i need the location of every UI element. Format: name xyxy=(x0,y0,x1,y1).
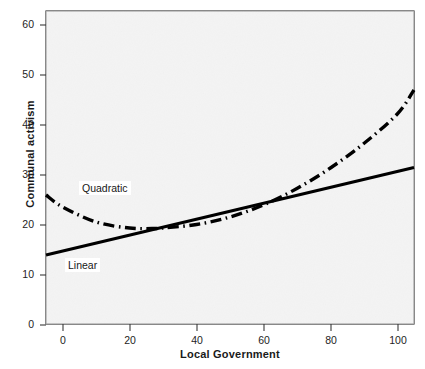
y-tick-label-0: 0 xyxy=(10,318,34,330)
x-tick-label-60: 60 xyxy=(249,334,279,346)
x-tick-label-20: 20 xyxy=(115,334,145,346)
chart-figure: 0 10 20 30 40 50 60 0 20 40 60 80 100 Co… xyxy=(0,0,425,369)
y-axis-ticks xyxy=(40,25,46,325)
series-annotation-linear: Linear xyxy=(65,258,100,272)
x-tick-label-80: 80 xyxy=(316,334,346,346)
series-annotation-quadratic: Quadratic xyxy=(79,181,131,195)
x-tick-label-100: 100 xyxy=(383,334,413,346)
x-axis-ticks xyxy=(63,324,398,331)
x-axis-title: Local Government xyxy=(46,348,414,360)
y-tick-label-10: 10 xyxy=(10,268,34,280)
y-axis-title: Communal activism xyxy=(24,74,36,234)
y-tick-label-60: 60 xyxy=(10,18,34,30)
x-tick-label-40: 40 xyxy=(182,334,212,346)
x-tick-label-0: 0 xyxy=(48,334,78,346)
chart-canvas xyxy=(0,0,425,369)
plot-area-background xyxy=(46,11,414,324)
